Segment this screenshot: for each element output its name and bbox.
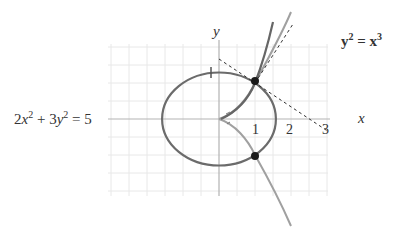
x-tick-label-3: 3 xyxy=(322,122,329,137)
ellipse-equation-label: 2x2 + 3y2 = 5 xyxy=(14,109,92,127)
intersection-point-upper xyxy=(251,77,259,85)
x-axis-label: x xyxy=(357,110,365,126)
x-tick-label-1: 1 xyxy=(252,122,259,137)
y-axis-label: y xyxy=(211,23,220,39)
orthogonal-curve xyxy=(221,22,273,119)
grid xyxy=(108,44,328,196)
tangent-line-ellipse xyxy=(219,59,329,132)
intersection-point-lower xyxy=(251,152,259,160)
orthogonal-curves-diagram: y x 1 2 3 1 2x2 + 3y2 = 5 y2 = x3 xyxy=(0,0,402,239)
x-tick-label-2: 2 xyxy=(286,122,293,137)
cusp-equation-label: y2 = x3 xyxy=(341,31,382,49)
